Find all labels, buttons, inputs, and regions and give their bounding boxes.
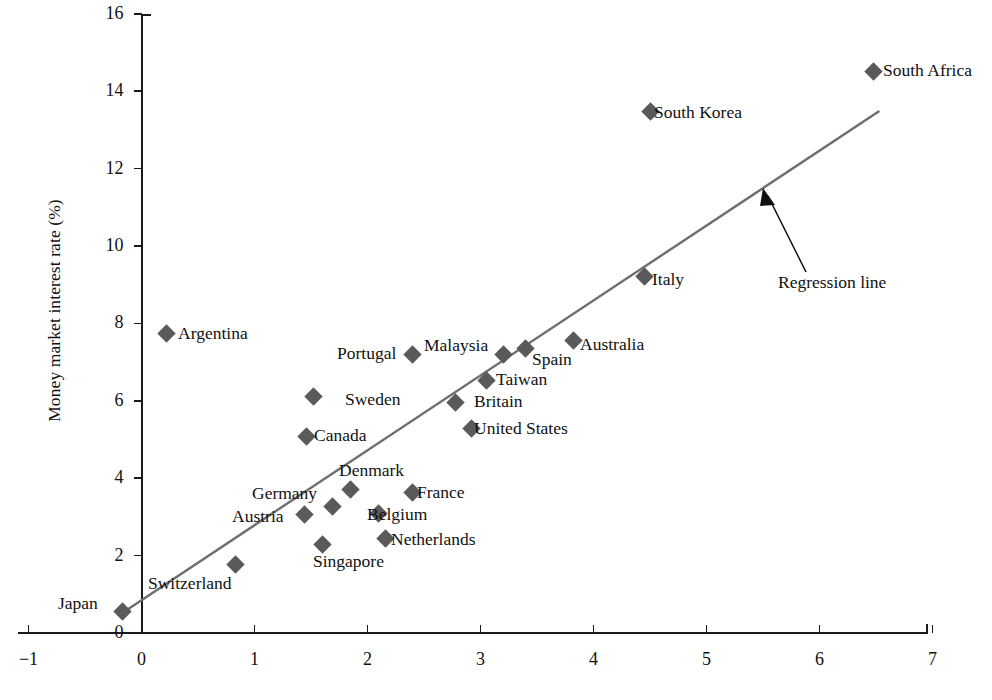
data-point-label: Denmark [339, 462, 404, 480]
data-point-marker[interactable] [295, 506, 313, 524]
y-tick-label: 6 [84, 390, 124, 411]
y-axis-title: Money market interest rate (%) [44, 161, 65, 461]
data-point-marker[interactable] [865, 62, 883, 80]
data-point-label: France [417, 484, 465, 502]
data-point-label: Australia [580, 336, 644, 354]
y-tick [134, 477, 142, 479]
x-tick [28, 625, 30, 633]
y-tick-label: 10 [84, 235, 124, 256]
x-tick-label: −1 [9, 649, 49, 670]
x-tick [480, 625, 482, 633]
regression-annotation-arrowhead [760, 188, 775, 206]
data-point-marker[interactable] [341, 480, 359, 498]
data-point-label: Spain [532, 351, 572, 369]
data-point-label: Canada [314, 427, 366, 445]
y-tick-label: 12 [84, 158, 124, 179]
scatter-plot: Money market interest rate (%) 024681012… [0, 0, 992, 700]
x-tick [819, 625, 821, 633]
data-point-label: Singapore [313, 553, 384, 571]
data-point-label: Argentina [178, 325, 248, 343]
data-point-label: United States [474, 420, 568, 438]
x-axis-line [18, 632, 928, 634]
data-point-label: Austria [232, 508, 284, 526]
data-point-label: Britain [474, 393, 523, 411]
y-tick [134, 13, 142, 15]
data-point-label: Portugal [337, 345, 396, 363]
data-point-marker[interactable] [113, 603, 131, 621]
x-tick-label: 3 [461, 649, 501, 670]
y-tick [134, 323, 142, 325]
data-point-marker[interactable] [157, 325, 175, 343]
x-tick [593, 625, 595, 633]
y-tick-label: 16 [84, 3, 124, 24]
y-tick [134, 400, 142, 402]
data-point-marker[interactable] [323, 497, 341, 515]
x-tick [254, 625, 256, 633]
data-point-label: Italy [652, 271, 684, 289]
x-tick-label: 2 [348, 649, 388, 670]
data-point-marker[interactable] [494, 345, 512, 363]
y-tick [134, 168, 142, 170]
data-point-marker[interactable] [297, 427, 315, 445]
x-axis-right-cap [926, 624, 928, 634]
y-tick [134, 555, 142, 557]
y-tick-label: 8 [84, 312, 124, 333]
y-tick-label: 4 [84, 467, 124, 488]
x-tick-label: 5 [687, 649, 727, 670]
data-point-marker[interactable] [226, 555, 244, 573]
data-point-label: Switzerland [148, 575, 232, 593]
x-tick-label: 0 [122, 649, 162, 670]
data-point-label: Sweden [345, 391, 400, 409]
x-tick-label: 4 [574, 649, 614, 670]
data-point-label: Netherlands [391, 531, 476, 549]
data-point-label: South Africa [883, 62, 972, 80]
y-axis-top-cap [141, 14, 151, 16]
x-tick [932, 625, 934, 633]
plot-overlay [0, 0, 992, 700]
y-tick [134, 245, 142, 247]
data-point-label: South Korea [654, 104, 742, 122]
data-point-marker[interactable] [304, 387, 322, 405]
data-point-label: Japan [58, 595, 98, 613]
data-point-label: Germany [252, 485, 317, 503]
data-point-label: Belgium [367, 506, 427, 524]
x-tick [367, 625, 369, 633]
x-tick-label: 1 [235, 649, 275, 670]
regression-annotation-leader [768, 196, 806, 272]
data-point-marker[interactable] [446, 394, 464, 412]
data-point-marker[interactable] [635, 268, 653, 286]
x-tick [141, 625, 143, 633]
data-point-label: Taiwan [496, 371, 547, 389]
y-tick [134, 90, 142, 92]
y-tick-label: 2 [84, 545, 124, 566]
data-point-marker[interactable] [403, 345, 421, 363]
x-tick-label: 7 [913, 649, 953, 670]
data-point-label: Malaysia [424, 337, 488, 355]
y-tick-label: 14 [84, 80, 124, 101]
x-tick [706, 625, 708, 633]
data-point-marker[interactable] [477, 371, 495, 389]
x-tick-label: 6 [800, 649, 840, 670]
regression-annotation-label: Regression line [778, 272, 886, 293]
y-tick-label: 0 [84, 622, 124, 643]
